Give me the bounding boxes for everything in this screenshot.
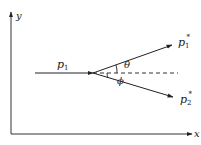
x-axis-label: x	[194, 128, 200, 139]
y-axis-label: y	[15, 10, 22, 21]
y-axis: y	[11, 10, 22, 134]
theta-arc	[116, 65, 117, 73]
theta-label: θ	[124, 59, 130, 70]
scattering-diagram: y x p1 p1* p2* θ ϕ	[0, 0, 201, 145]
phi-label: ϕ	[117, 75, 124, 86]
outgoing-vector-p1-star: p1*	[93, 33, 191, 73]
incoming-vector-p1: p1	[35, 58, 93, 73]
outgoing-vector-p2-star: p2*	[93, 73, 193, 107]
p2-star-label: p2*	[180, 90, 193, 107]
p1-label: p1	[57, 58, 69, 72]
x-axis: x	[11, 128, 200, 139]
p1-star-label: p1*	[178, 33, 191, 50]
